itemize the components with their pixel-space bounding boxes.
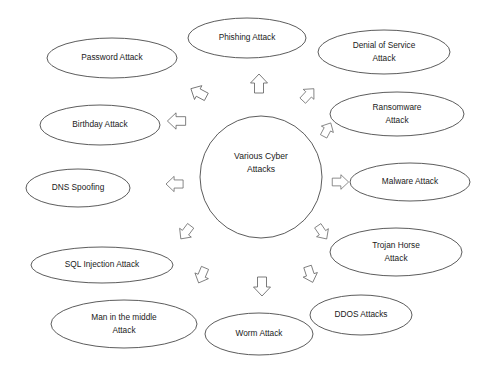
node-label-password-attack: Password Attack xyxy=(81,52,143,62)
hub-circle[interactable] xyxy=(200,116,322,238)
arrow-to-dns-spoofing-icon xyxy=(166,176,183,191)
arrow-to-ddos-icon xyxy=(300,264,319,285)
arrow-to-phishing-icon xyxy=(251,74,268,93)
node-ellipse-man-in-the-middle-attack[interactable] xyxy=(51,300,197,348)
arrow-to-man-in-the-middle-icon xyxy=(192,265,212,286)
node-phishing-attack[interactable]: Phishing Attack xyxy=(188,18,306,58)
node-label-ransomware-attack: Ransomware xyxy=(373,102,422,112)
hub-node-various-cyber-attacks[interactable]: Various CyberAttacks xyxy=(200,116,322,238)
node-trojan-horse-attack[interactable]: Trojan HorseAttack xyxy=(330,228,462,276)
node-denial-of-service-attack[interactable]: Denial of ServiceAttack xyxy=(318,30,450,74)
node-label-man-in-the-middle-attack-line2: Attack xyxy=(112,325,136,335)
hub-label-line1: Various Cyber xyxy=(234,151,288,161)
node-label-trojan-horse-attack-line2: Attack xyxy=(384,253,408,263)
node-label-birthday-attack: Birthday Attack xyxy=(72,119,128,129)
node-label-malware-attack: Malware Attack xyxy=(382,176,439,186)
node-ellipse-denial-of-service-attack[interactable] xyxy=(318,30,450,74)
arrow-to-worm-icon xyxy=(254,277,271,296)
node-ddos-attacks[interactable]: DDOS Attacks xyxy=(310,295,412,335)
node-label-phishing-attack: Phishing Attack xyxy=(219,32,277,42)
node-label-worm-attack: Worm Attack xyxy=(236,328,284,338)
arrow-to-birthday-icon xyxy=(167,113,185,129)
arrow-to-ransomware-icon xyxy=(318,120,337,140)
node-ellipse-ransomware-attack[interactable] xyxy=(330,92,464,136)
arrow-to-denial-of-service-icon xyxy=(297,84,319,106)
arrow-to-password-icon xyxy=(187,82,210,104)
hub-layer: Various CyberAttacks xyxy=(200,116,322,238)
node-dns-spoofing[interactable]: DNS Spoofing xyxy=(26,169,130,207)
node-man-in-the-middle-attack[interactable]: Man in the middleAttack xyxy=(51,300,197,348)
node-malware-attack[interactable]: Malware Attack xyxy=(350,163,470,201)
node-sql-injection-attack[interactable]: SQL Injection Attack xyxy=(31,247,173,283)
node-label-dns-spoofing: DNS Spoofing xyxy=(52,182,105,192)
node-password-attack[interactable]: Password Attack xyxy=(47,38,177,78)
node-label-denial-of-service-attack: Denial of Service xyxy=(353,40,416,50)
node-label-trojan-horse-attack: Trojan Horse xyxy=(372,240,420,250)
node-label-man-in-the-middle-attack: Man in the middle xyxy=(91,312,157,322)
node-label-ransomware-attack-line2: Attack xyxy=(385,115,409,125)
diagram-canvas: Phishing AttackDenial of ServiceAttackRa… xyxy=(0,0,487,375)
hub-label-line2: Attacks xyxy=(247,164,275,174)
node-label-sql-injection-attack: SQL Injection Attack xyxy=(65,259,140,269)
node-label-ddos-attacks: DDOS Attacks xyxy=(334,309,387,319)
node-birthday-attack[interactable]: Birthday Attack xyxy=(40,105,160,145)
node-worm-attack[interactable]: Worm Attack xyxy=(205,313,313,355)
cyber-attacks-radial-diagram: Phishing AttackDenial of ServiceAttackRa… xyxy=(0,0,487,375)
arrow-to-malware-icon xyxy=(332,175,348,190)
node-ellipse-trojan-horse-attack[interactable] xyxy=(330,228,462,276)
node-ransomware-attack[interactable]: RansomwareAttack xyxy=(330,92,464,136)
arrow-to-sql-injection-icon xyxy=(175,221,197,243)
arrow-to-trojan-horse-icon xyxy=(312,222,333,243)
node-label-denial-of-service-attack-line2: Attack xyxy=(372,53,396,63)
